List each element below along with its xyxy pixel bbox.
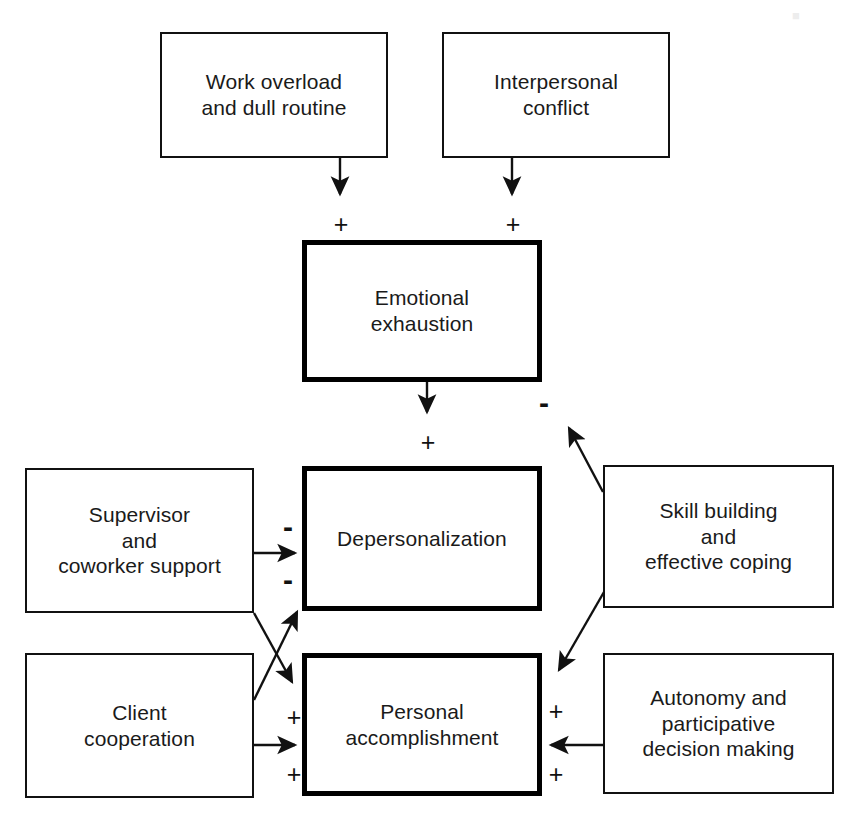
- node-label: Depersonalization: [331, 526, 513, 552]
- scan-artifact: ■: [792, 8, 800, 23]
- sign-client-to-personal: +: [283, 762, 305, 787]
- node-label: Emotional exhaustion: [365, 285, 480, 336]
- burnout-flow-diagram: Work overload and dull routine Interpers…: [0, 0, 857, 824]
- node-label: Work overload and dull routine: [195, 69, 352, 120]
- sign-client-to-depersonalization: -: [277, 565, 299, 595]
- sign-work-to-exhaustion: +: [330, 212, 352, 237]
- node-emotional-exhaustion[interactable]: Emotional exhaustion: [302, 240, 542, 382]
- node-depersonalization[interactable]: Depersonalization: [302, 466, 542, 611]
- sign-autonomy-to-personal: +: [545, 762, 567, 787]
- sign-supervisor-to-personal: +: [283, 705, 305, 730]
- sign-skill-to-exhaustion: -: [533, 388, 555, 418]
- edge-skill-to-personal: [559, 592, 604, 670]
- node-personal-accomplishment[interactable]: Personal accomplishment: [302, 653, 542, 796]
- node-autonomy-participative-decision-making[interactable]: Autonomy and participative decision maki…: [603, 653, 834, 794]
- node-skill-building[interactable]: Skill building and effective coping: [603, 465, 834, 608]
- node-supervisor-and-coworker-support[interactable]: Supervisor and coworker support: [25, 468, 254, 613]
- edge-supervisor-to-personal: [254, 613, 292, 682]
- sign-skill-to-personal: +: [545, 699, 567, 724]
- node-client-cooperation[interactable]: Client cooperation: [25, 653, 254, 798]
- edge-client-to-deperson: [254, 612, 297, 700]
- node-label: Autonomy and participative decision maki…: [636, 685, 800, 762]
- sign-exhaustion-to-depersonalization: +: [417, 430, 439, 455]
- node-label: Personal accomplishment: [339, 699, 504, 750]
- edge-skill-to-exhaustion: [569, 428, 603, 492]
- sign-conflict-to-exhaustion: +: [502, 212, 524, 237]
- node-label: Skill building and effective coping: [639, 498, 798, 575]
- node-interpersonal-conflict[interactable]: Interpersonal conflict: [442, 32, 670, 158]
- node-work-overload[interactable]: Work overload and dull routine: [160, 32, 388, 158]
- sign-supervisor-to-depersonalization: -: [277, 512, 299, 542]
- node-label: Interpersonal conflict: [488, 69, 624, 120]
- node-label: Supervisor and coworker support: [52, 502, 227, 579]
- node-label: Client cooperation: [78, 700, 201, 751]
